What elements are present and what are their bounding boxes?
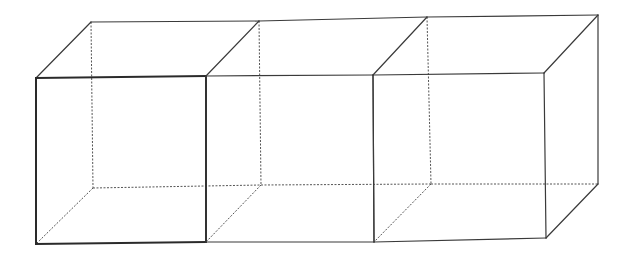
top-left-depth-edge: [206, 21, 259, 76]
back-top-edge: [259, 17, 427, 21]
hidden-back-bottom-edge: [261, 184, 431, 185]
three-cubes-diagram: [0, 0, 629, 257]
front-top-edge: [206, 75, 373, 76]
front-top-edge: [36, 76, 206, 78]
hidden-bottom-left-depth-edge: [206, 185, 261, 242]
front-left-edge: [373, 75, 374, 242]
hidden-bottom-left-depth-edge: [36, 188, 93, 244]
hidden-back-left-edge: [91, 22, 93, 188]
back-top-edge: [427, 15, 598, 17]
cube-3: [373, 15, 598, 242]
back-top-edge: [91, 21, 259, 22]
front-right-edge: [544, 73, 546, 238]
top-left-depth-edge: [373, 17, 427, 75]
front-top-edge: [373, 73, 544, 75]
hidden-bottom-left-depth-edge: [374, 184, 431, 242]
hidden-back-left-edge: [259, 21, 261, 185]
top-left-depth-edge: [36, 22, 91, 78]
cube-2: [206, 17, 431, 242]
hidden-back-bottom-edge: [93, 185, 261, 188]
diagram-canvas: [0, 0, 629, 257]
front-bottom-edge: [36, 242, 206, 244]
hidden-back-left-edge: [427, 17, 431, 184]
front-bottom-edge: [374, 238, 546, 242]
bottom-right-depth-edge: [546, 184, 598, 238]
top-right-depth-edge: [544, 15, 598, 73]
